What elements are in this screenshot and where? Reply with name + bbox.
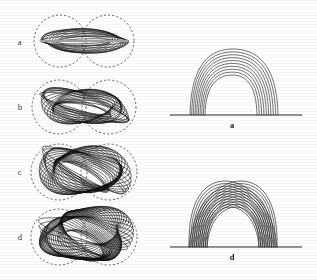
right-column-group: [170, 49, 302, 247]
panel-label-a: a: [18, 38, 22, 47]
figure-root: abcdad: [0, 0, 317, 280]
panel-right-d: [170, 181, 302, 247]
panel-d: [31, 206, 137, 265]
panel-a: [34, 15, 134, 67]
arch-line: [190, 49, 278, 115]
figure-canvas: abcdad: [0, 0, 317, 280]
arch-line: [203, 72, 259, 115]
panel-label-d: d: [18, 233, 22, 242]
dome-arch-left: [207, 207, 259, 247]
dome-arch-right: [205, 204, 261, 247]
panel-c: [31, 144, 137, 200]
panel-b: [32, 80, 136, 134]
arch-line: [205, 75, 257, 115]
panel-right-a: [170, 49, 302, 115]
panel-label-b: b: [18, 103, 22, 112]
left-column-group: [31, 15, 137, 265]
dome-arch-right: [207, 207, 259, 247]
right-panel-label-a: a: [230, 120, 235, 130]
right-panel-label-d: d: [230, 252, 235, 262]
panel-label-c: c: [18, 168, 22, 177]
dome-arch-left: [205, 204, 261, 247]
